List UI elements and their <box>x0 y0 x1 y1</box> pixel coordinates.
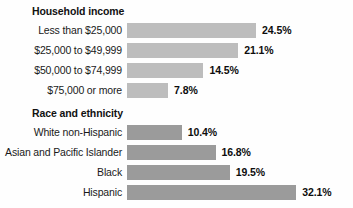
bar-category-label: $50,000 to $74,999 <box>0 62 122 78</box>
bar <box>127 185 296 200</box>
bar <box>127 63 203 78</box>
bar-category-label: Black <box>0 164 122 180</box>
bar-row: $25,000 to $49,99921.1% <box>0 42 353 62</box>
bar-row: Hispanic32.1% <box>0 184 353 204</box>
group-title-household-income: Household income <box>32 5 124 17</box>
bar-category-label: White non-Hispanic <box>0 124 122 140</box>
bar <box>127 165 230 180</box>
bar-value-label: 10.4% <box>188 124 217 140</box>
bar <box>127 83 168 98</box>
bar-row: Asian and Pacific Islander16.8% <box>0 144 353 164</box>
bar <box>127 43 238 58</box>
bar <box>127 23 256 38</box>
bar <box>127 125 182 140</box>
bar-category-label: Asian and Pacific Islander <box>0 144 122 160</box>
bar-row: $75,000 or more7.8% <box>0 82 353 102</box>
bar-row: Black19.5% <box>0 164 353 184</box>
bar-category-label: $25,000 to $49,999 <box>0 42 122 58</box>
bar-value-label: 21.1% <box>244 42 273 58</box>
bar-value-label: 16.8% <box>222 144 251 160</box>
bar-value-label: 32.1% <box>302 184 331 200</box>
group-title-race-ethnicity: Race and ethnicity <box>32 107 123 119</box>
bar-category-label: Hispanic <box>0 184 122 200</box>
bar-row: Less than $25,00024.5% <box>0 22 353 42</box>
bar-rows-household-income: Less than $25,00024.5%$25,000 to $49,999… <box>0 22 353 102</box>
bar-chart: Household income Less than $25,00024.5%$… <box>0 0 353 208</box>
bar-category-label: $75,000 or more <box>0 82 122 98</box>
bar-row: $50,000 to $74,99914.5% <box>0 62 353 82</box>
bar-value-label: 14.5% <box>209 62 238 78</box>
bar-category-label: Less than $25,000 <box>0 22 122 38</box>
bar <box>127 145 216 160</box>
bar-value-label: 7.8% <box>174 82 198 98</box>
bar-rows-race-ethnicity: White non-Hispanic10.4%Asian and Pacific… <box>0 124 353 204</box>
bar-value-label: 19.5% <box>236 164 265 180</box>
bar-value-label: 24.5% <box>262 22 291 38</box>
bar-row: White non-Hispanic10.4% <box>0 124 353 144</box>
